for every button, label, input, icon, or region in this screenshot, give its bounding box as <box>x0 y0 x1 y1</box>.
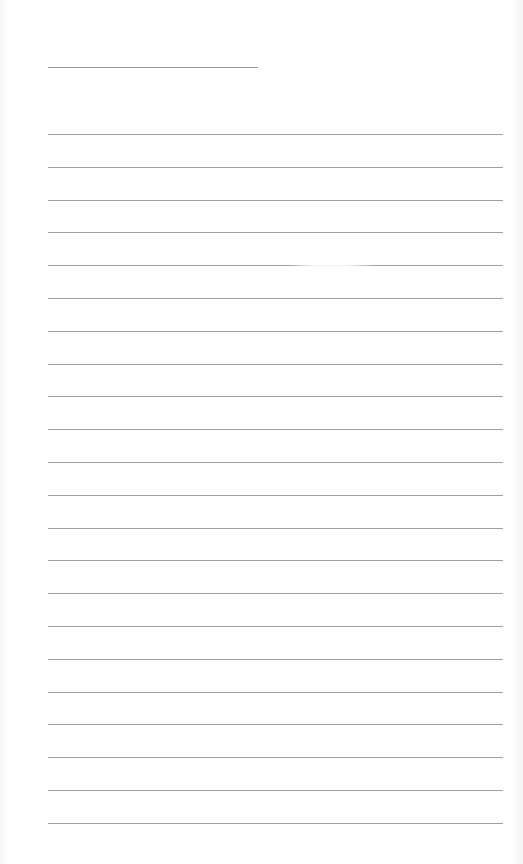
title-line <box>48 67 258 68</box>
ruled-line <box>48 626 503 627</box>
ruled-line <box>48 790 503 791</box>
ruled-line <box>48 396 503 397</box>
ruled-line <box>48 265 503 266</box>
ruled-line <box>48 659 503 660</box>
ruled-line <box>48 298 503 299</box>
ruled-line <box>48 364 503 365</box>
ruled-line <box>48 823 503 824</box>
ruled-line <box>48 167 503 168</box>
ruled-page <box>0 0 523 864</box>
ruled-line <box>48 331 503 332</box>
ruled-line <box>48 495 503 496</box>
ruled-line <box>48 134 503 135</box>
ruled-line <box>48 757 503 758</box>
ruled-line <box>48 593 503 594</box>
ruled-line <box>48 724 503 725</box>
ruled-line <box>48 528 503 529</box>
ruled-line <box>48 200 503 201</box>
ruled-line <box>48 429 503 430</box>
ruled-line <box>48 232 503 233</box>
ruled-line <box>48 560 503 561</box>
ruled-line <box>48 692 503 693</box>
ruled-line <box>48 462 503 463</box>
